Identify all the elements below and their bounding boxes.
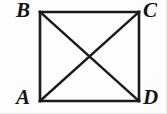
square-diagonals (40, 12, 139, 101)
vertex-label-c: C (143, 0, 157, 21)
vertex-label-d: D (143, 87, 158, 108)
vertex-label-a: A (16, 87, 30, 108)
geometry-figure: B C A D (0, 0, 167, 114)
vertex-label-b: B (16, 0, 30, 21)
